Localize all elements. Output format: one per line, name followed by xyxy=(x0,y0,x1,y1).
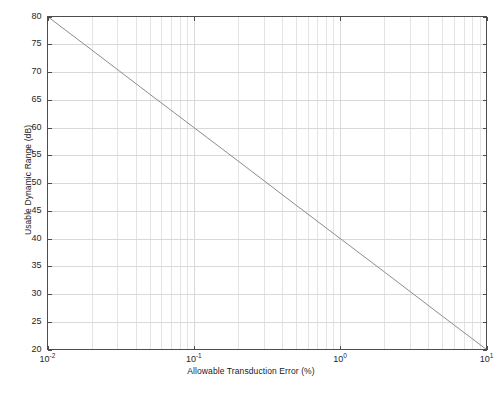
x-tick-label: 100 xyxy=(320,355,360,364)
y-tick-label: 30 xyxy=(16,289,42,298)
y-tick-label: 80 xyxy=(16,12,42,21)
x-tick-label: 10-2 xyxy=(28,355,68,364)
y-axis-title: Usable Dynamic Range (dB) xyxy=(23,90,33,270)
y-tick-label: 20 xyxy=(16,345,42,354)
x-axis-title: Allowable Transduction Error (%) xyxy=(0,366,502,376)
chart-figure: 20253035404550556065707580 10-210-110010… xyxy=(0,0,502,395)
x-tick-label: 10-1 xyxy=(174,355,214,364)
y-tick-label: 70 xyxy=(16,67,42,76)
chart-plot-area xyxy=(0,0,502,395)
y-tick-label: 75 xyxy=(16,39,42,48)
y-tick-label: 25 xyxy=(16,317,42,326)
x-tick-label: 101 xyxy=(467,355,502,364)
